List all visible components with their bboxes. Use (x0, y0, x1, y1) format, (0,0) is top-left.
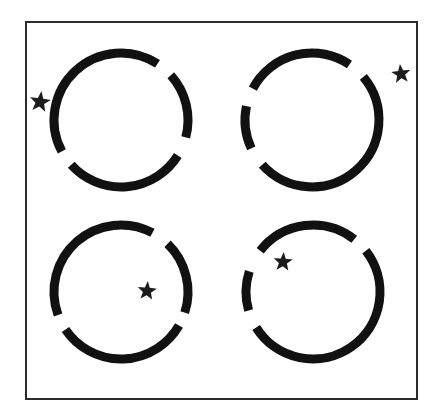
figure-background (0, 0, 438, 420)
broken-circles-figure (0, 0, 438, 420)
arc-segment-bottom-right-2 (246, 271, 249, 310)
figure-root: Broken circles with star markers (0, 0, 438, 420)
